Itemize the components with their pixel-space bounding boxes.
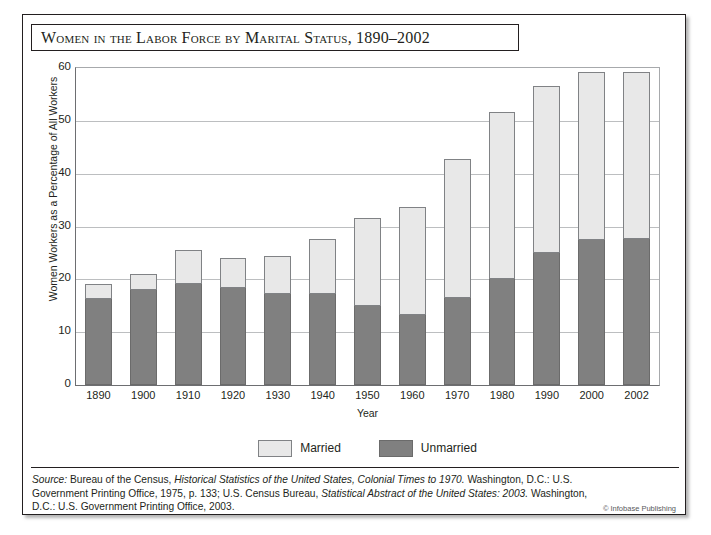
x-axis-tick: 1950 [345, 389, 390, 401]
bar-segment-married[interactable] [489, 112, 516, 279]
bar-segment-unmarried[interactable] [533, 252, 560, 385]
y-axis-tick: 20 [41, 271, 71, 283]
x-axis-tick: 1920 [211, 389, 256, 401]
bar-segment-unmarried[interactable] [220, 287, 247, 385]
bar-segment-unmarried[interactable] [444, 297, 471, 385]
bar-segment-married[interactable] [578, 72, 605, 239]
source-lead: Source: [32, 474, 67, 485]
source-divider [31, 467, 679, 468]
x-axis-tick: 1990 [524, 389, 569, 401]
y-axis-tick: 10 [41, 324, 71, 336]
x-axis-tick: 1910 [166, 389, 211, 401]
y-axis-tick: 60 [41, 60, 71, 72]
bar-group[interactable] [264, 68, 291, 385]
bar-segment-unmarried[interactable] [399, 314, 426, 385]
bar-group[interactable] [354, 68, 381, 385]
bar-segment-married[interactable] [220, 258, 247, 288]
legend-label-unmarried: Unmarried [421, 441, 477, 455]
x-axis-tick: 1960 [390, 389, 435, 401]
bar-segment-married[interactable] [309, 239, 336, 294]
y-axis-tick: 30 [41, 219, 71, 231]
bar-segment-unmarried[interactable] [130, 289, 157, 385]
legend-item-unmarried[interactable]: Unmarried [379, 440, 477, 457]
bar-segment-married[interactable] [354, 218, 381, 306]
source-work2: Statistical Abstract of the United State… [321, 488, 528, 499]
plot-wrapper: Women Workers as a Percentage of All Wor… [23, 15, 687, 516]
y-axis-tick: 0 [41, 377, 71, 389]
legend-swatch-married [258, 440, 292, 457]
chart-legend: MarriedUnmarried [75, 435, 660, 461]
legend-label-married: Married [300, 441, 341, 455]
bar-segment-unmarried[interactable] [489, 278, 516, 385]
x-axis-tick: 1900 [121, 389, 166, 401]
y-axis-tick: 50 [41, 113, 71, 125]
x-axis-tick-labels: 1890190019101920193019401950196019701980… [76, 389, 659, 405]
publisher-credit: © Infobase Publishing [603, 504, 676, 513]
bar-segment-unmarried[interactable] [309, 293, 336, 385]
bar-segment-unmarried[interactable] [623, 238, 650, 385]
bar-segment-married[interactable] [130, 274, 157, 290]
bar-group[interactable] [533, 68, 560, 385]
source-work1: Historical Statistics of the United Stat… [174, 474, 464, 485]
bar-group[interactable] [399, 68, 426, 385]
figure-frame: Women in the Labor Force by Marital Stat… [22, 14, 686, 515]
x-axis-tick: 2000 [569, 389, 614, 401]
bar-segment-unmarried[interactable] [354, 305, 381, 385]
bar-group[interactable] [309, 68, 336, 385]
x-axis-tick: 1970 [435, 389, 480, 401]
x-axis-tick: 2002 [614, 389, 659, 401]
bar-series-container [76, 68, 659, 385]
x-axis-tick: 1980 [480, 389, 525, 401]
legend-item-married[interactable]: Married [258, 440, 341, 457]
source-note: Source: Bureau of the Census, Historical… [32, 473, 592, 514]
x-axis-tick: 1890 [76, 389, 121, 401]
x-axis-tick: 1930 [255, 389, 300, 401]
bar-group[interactable] [489, 68, 516, 385]
bar-group[interactable] [578, 68, 605, 385]
bar-segment-unmarried[interactable] [85, 298, 112, 385]
bar-segment-married[interactable] [264, 256, 291, 293]
bar-segment-married[interactable] [85, 284, 112, 300]
bar-segment-married[interactable] [623, 72, 650, 238]
bar-group[interactable] [623, 68, 650, 385]
legend-swatch-unmarried [379, 440, 413, 457]
bar-segment-unmarried[interactable] [578, 239, 605, 385]
bar-group[interactable] [175, 68, 202, 385]
bar-segment-married[interactable] [444, 159, 471, 297]
bar-segment-married[interactable] [399, 207, 426, 315]
bar-segment-married[interactable] [533, 86, 560, 253]
source-part1: Bureau of the Census, [67, 474, 174, 485]
bar-group[interactable] [85, 68, 112, 385]
y-axis-tick: 40 [41, 166, 71, 178]
bar-group[interactable] [130, 68, 157, 385]
x-axis-tick: 1940 [300, 389, 345, 401]
bar-group[interactable] [444, 68, 471, 385]
bar-segment-unmarried[interactable] [175, 283, 202, 385]
bar-group[interactable] [220, 68, 247, 385]
bar-segment-married[interactable] [175, 250, 202, 283]
x-axis-label: Year [75, 407, 660, 419]
y-axis-tick-labels: 0102030405060 [37, 67, 71, 386]
bar-segment-unmarried[interactable] [264, 293, 291, 385]
